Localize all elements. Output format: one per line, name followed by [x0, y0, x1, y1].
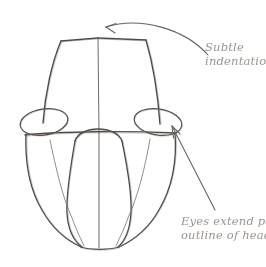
muzzle-right-side	[118, 141, 132, 247]
eyes-extend-arrow	[172, 126, 215, 210]
head-top-left-edge	[61, 38, 98, 42]
annotation-eyes-extend: Eyes extend past outline of head	[181, 214, 266, 242]
chin-bottom	[81, 247, 119, 250]
annotation-subtle-indentation: Subtle indentation	[205, 40, 266, 68]
muzzle-inner-left	[50, 140, 84, 246]
annotation-subtle-line2: indentation	[205, 54, 266, 68]
annotation-eyes-line1: Eyes extend past	[181, 214, 266, 228]
sketch-canvas: Subtle indentation Eyes extend past outl…	[0, 0, 266, 267]
head-right-side	[146, 40, 161, 124]
center-line-upper	[98, 38, 99, 133]
muzzle-left-side	[67, 141, 83, 247]
annotation-subtle-line1: Subtle	[205, 40, 244, 54]
head-top-right-edge	[98, 38, 146, 41]
annotation-eyes-line2: outline of head	[181, 228, 266, 242]
